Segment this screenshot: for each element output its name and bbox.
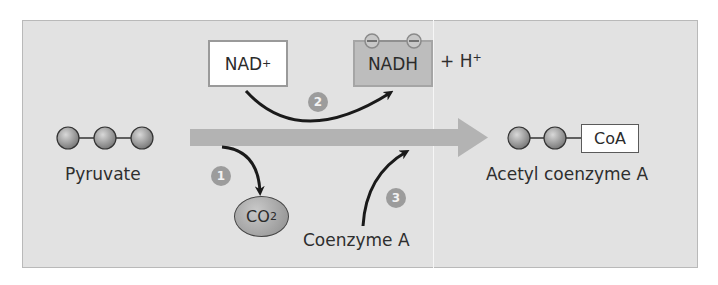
proton-text: + H: [440, 51, 472, 71]
acetyl-coa-label: Acetyl coenzyme A: [486, 164, 648, 184]
electron-icon: [365, 34, 421, 48]
proton-label: + H+: [440, 51, 482, 71]
step-1-badge: 1: [211, 166, 231, 186]
co2-text: CO: [246, 207, 270, 226]
co2-subscript: 2: [270, 210, 277, 223]
step-2-badge: 2: [308, 92, 328, 112]
proton-charge: +: [472, 51, 481, 64]
pyruvate-label: Pyruvate: [65, 164, 141, 184]
coa-box: CoA: [581, 124, 639, 153]
co2-molecule: CO2: [234, 196, 289, 237]
step-3-badge: 3: [386, 188, 406, 208]
coenzyme-a-label: Coenzyme A: [303, 230, 410, 250]
